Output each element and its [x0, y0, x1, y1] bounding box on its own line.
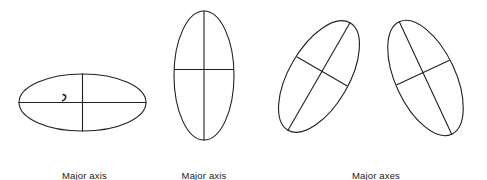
caption-inclined-line1: Major axes: [330, 170, 422, 180]
ellipse-orientation-figure: Major axis horizontal Major axis vertica…: [0, 0, 487, 180]
ellipse-inclined-cw-group: [262, 8, 376, 145]
caption-major-axis-vertical: Major axis vertical: [158, 147, 250, 180]
ellipse-inclined-cw-minor-axis: [297, 57, 347, 86]
ellipse-horizontal-group: [19, 74, 146, 131]
ellipse-vertical-group: [174, 11, 234, 140]
ellipse-inclined-ccw-minor-axis: [397, 60, 449, 84]
caption-horizontal-line1: Major axis: [62, 170, 107, 180]
caption-major-axis-horizontal: Major axis horizontal: [62, 147, 107, 180]
caption-vertical-line1: Major axis: [158, 170, 250, 180]
ellipse-inclined-ccw-major-axis: [399, 22, 451, 134]
ellipse-inclined-ccw-group: [372, 9, 479, 147]
stray-ink-mark-icon: [63, 95, 66, 101]
caption-major-axes-inclined: Major axes inclined: [330, 147, 422, 180]
ellipse-inclined-cw-major-axis: [288, 23, 350, 130]
